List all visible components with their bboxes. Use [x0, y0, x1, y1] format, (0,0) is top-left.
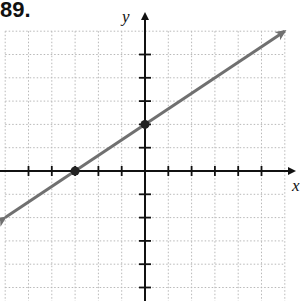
coordinate-plane: y x [0, 0, 300, 301]
y-axis-label: y [120, 7, 130, 26]
y-intercept-point [141, 120, 150, 129]
x-intercept-point [71, 167, 80, 176]
x-axis-label: x [291, 176, 300, 195]
